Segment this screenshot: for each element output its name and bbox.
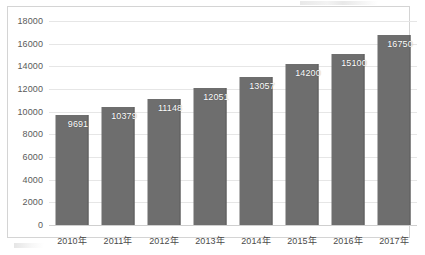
- y-axis-tick-label: 6000: [23, 152, 43, 162]
- gridline: [49, 225, 417, 226]
- bar[interactable]: [240, 77, 273, 225]
- bar[interactable]: [332, 54, 365, 225]
- plot-area: 1800016000140001200010000800060004000200…: [49, 21, 417, 225]
- bar-group: 96912010年: [49, 21, 95, 225]
- bar-group: 130572014年: [233, 21, 279, 225]
- x-axis-category-label: 2016年: [333, 234, 363, 247]
- bar[interactable]: [102, 107, 135, 225]
- bar-chart: 1800016000140001200010000800060004000200…: [0, 0, 425, 255]
- x-axis-category-label: 2013年: [195, 234, 225, 247]
- y-axis-tick-label: 8000: [23, 129, 43, 139]
- bar-value-label: 14200: [295, 68, 321, 78]
- x-axis-category-label: 2015年: [287, 234, 317, 247]
- y-axis-tick-label: 10000: [17, 107, 43, 117]
- y-axis-tick-label: 16000: [17, 39, 43, 49]
- x-axis-category-label: 2012年: [149, 234, 179, 247]
- bar[interactable]: [378, 35, 411, 225]
- bar[interactable]: [286, 64, 319, 225]
- y-axis-tick-label: 18000: [17, 16, 43, 26]
- bar-group: 142002015年: [279, 21, 325, 225]
- bar-value-label: 10379: [111, 111, 137, 121]
- bar-group: 103792011年: [95, 21, 141, 225]
- y-axis-tick-label: 14000: [17, 61, 43, 71]
- bar-value-label: 13057: [249, 81, 275, 91]
- bar-series: 96912010年103792011年111482012年120512013年1…: [49, 21, 417, 225]
- bottom-edge-artifact: [14, 243, 44, 248]
- bar[interactable]: [194, 88, 227, 225]
- y-axis-tick-label: 2000: [23, 197, 43, 207]
- x-axis-category-label: 2011年: [104, 234, 133, 247]
- bar-value-label: 11148: [158, 103, 182, 113]
- bar-value-label: 16750: [387, 39, 413, 49]
- bar-group: 167502017年: [371, 21, 417, 225]
- bar-group: 151002016年: [325, 21, 371, 225]
- top-edge-artifact: [300, 1, 378, 5]
- x-axis-category-label: 2017年: [379, 234, 409, 247]
- bar-group: 120512013年: [187, 21, 233, 225]
- bar-value-label: 12051: [203, 92, 229, 102]
- y-axis-tick-label: 12000: [17, 84, 43, 94]
- y-axis-tick-label: 0: [38, 220, 43, 230]
- x-axis-category-label: 2010年: [57, 234, 87, 247]
- x-axis-category-label: 2014年: [241, 234, 271, 247]
- bar[interactable]: [148, 99, 181, 225]
- y-axis-tick-label: 4000: [23, 175, 43, 185]
- bar-group: 111482012年: [141, 21, 187, 225]
- bar-value-label: 9691: [68, 119, 88, 129]
- plot-frame: 1800016000140001200010000800060004000200…: [7, 6, 410, 238]
- bar-value-label: 15100: [341, 58, 367, 68]
- bar[interactable]: [56, 115, 89, 225]
